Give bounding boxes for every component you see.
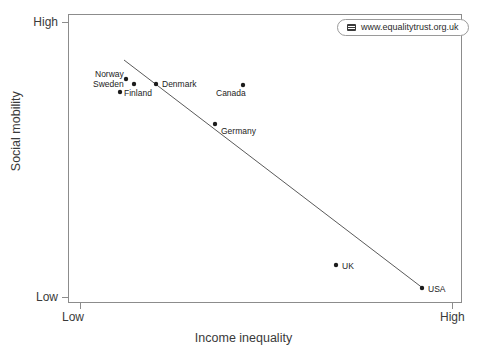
x-axis-title: Income inequality [0, 332, 487, 345]
x-tick-low [80, 303, 81, 309]
y-axis-tick-label-high: High [33, 16, 58, 28]
card-icon [347, 24, 356, 31]
data-point-label: Finland [124, 89, 152, 98]
data-point-label: Sweden [93, 80, 124, 89]
y-tick-high [62, 22, 68, 23]
plot-frame [68, 14, 462, 303]
x-axis-tick-label-low: Low [62, 311, 84, 323]
data-point-label: USA [428, 285, 445, 294]
legend-url-badge[interactable]: www.equalitytrust.org.uk [337, 19, 469, 36]
data-point-label: Denmark [162, 80, 196, 89]
x-tick-high [452, 303, 453, 309]
legend-url-text: www.equalitytrust.org.uk [361, 23, 459, 32]
data-point-label: Norway [95, 70, 124, 79]
y-axis-title: Social mobility [10, 71, 23, 191]
y-tick-low [62, 297, 68, 298]
data-point-label: Canada [216, 89, 246, 98]
data-point-label: Germany [221, 127, 256, 136]
x-axis-tick-label-high: High [440, 311, 465, 323]
y-axis-tick-label-low: Low [36, 291, 58, 303]
chart-root: High Low Low High Social mobility Income… [0, 0, 487, 354]
data-point-label: UK [342, 262, 354, 271]
